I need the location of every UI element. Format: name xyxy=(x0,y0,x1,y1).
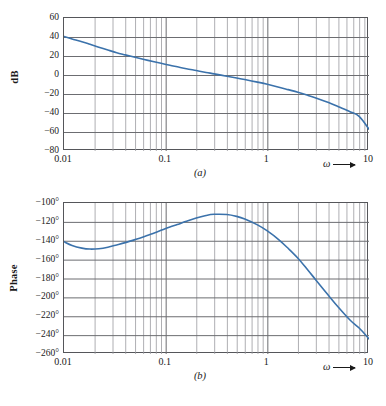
phase-y-tick: −220° xyxy=(0,310,59,320)
phase-omega-axis-label: ω xyxy=(323,361,355,372)
phase-x-tick: 1 xyxy=(264,356,269,367)
magnitude-x-tick: 1 xyxy=(264,153,269,164)
phase-x-tick: 0.01 xyxy=(54,356,72,367)
magnitude-omega-axis-label: ω xyxy=(323,158,355,169)
phase-y-tick: −200° xyxy=(0,291,59,301)
phase-y-tick: −180° xyxy=(0,273,59,283)
omega-symbol: ω xyxy=(323,158,330,169)
magnitude-curve-svg xyxy=(64,18,369,151)
phase-y-tick: −100° xyxy=(0,197,59,207)
phase-y-tick: −240° xyxy=(0,329,59,339)
panel-b-label: (b) xyxy=(194,370,206,381)
magnitude-y-tick: −80 xyxy=(0,145,59,155)
magnitude-y-tick: 20 xyxy=(0,50,59,60)
magnitude-plot-area xyxy=(63,17,368,150)
phase-y-tick: −260° xyxy=(0,348,59,358)
phase-x-tick: 10 xyxy=(363,356,373,367)
phase-y-tick: −120° xyxy=(0,216,59,226)
magnitude-x-tick: 0.01 xyxy=(54,153,72,164)
bode-plot-figure: dB 6040200−20−40−60−80 0.010.1110 (a) ω … xyxy=(0,0,386,406)
magnitude-x-tick: 0.1 xyxy=(158,153,171,164)
phase-curve-svg xyxy=(64,203,369,354)
magnitude-y-tick: −20 xyxy=(0,88,59,98)
panel-a-label: (a) xyxy=(194,167,206,178)
phase-plot-area xyxy=(63,202,368,353)
phase-y-tick: −160° xyxy=(0,254,59,264)
magnitude-y-tick: −60 xyxy=(0,126,59,136)
arrow-right-icon xyxy=(333,164,355,165)
magnitude-y-tick: −40 xyxy=(0,107,59,117)
panel-magnitude: dB 6040200−20−40−60−80 0.010.1110 (a) ω xyxy=(0,0,386,190)
magnitude-x-tick: 10 xyxy=(363,153,373,164)
omega-symbol: ω xyxy=(323,361,330,372)
arrow-right-icon xyxy=(333,367,355,368)
magnitude-y-tick: 40 xyxy=(0,31,59,41)
panel-phase: Phase −100°−120°−140°−160°−180°−200°−220… xyxy=(0,190,386,390)
phase-x-tick: 0.1 xyxy=(158,356,171,367)
magnitude-y-tick: 60 xyxy=(0,12,59,22)
phase-y-tick: −140° xyxy=(0,235,59,245)
magnitude-y-tick: 0 xyxy=(0,69,59,79)
